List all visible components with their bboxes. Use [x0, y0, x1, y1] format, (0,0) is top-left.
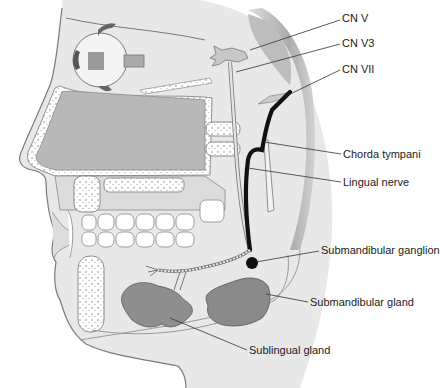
label-lingual-nerve: Lingual nerve: [343, 176, 409, 188]
label-cn-v: CN V: [342, 12, 368, 24]
mandible: [78, 256, 104, 332]
label-submandibular-gland: Submandibular gland: [310, 296, 414, 308]
maxilla: [55, 176, 225, 212]
label-cn-v3: CN V3: [342, 37, 374, 49]
label-cn-vii: CN VII: [342, 63, 374, 75]
label-sublingual-gland: Sublingual gland: [249, 344, 330, 356]
label-submandibular-ganglion: Submandibular ganglion: [321, 244, 440, 256]
label-chorda-tympani: Chorda tympani: [343, 148, 421, 160]
submandibular-ganglion: [246, 257, 258, 269]
